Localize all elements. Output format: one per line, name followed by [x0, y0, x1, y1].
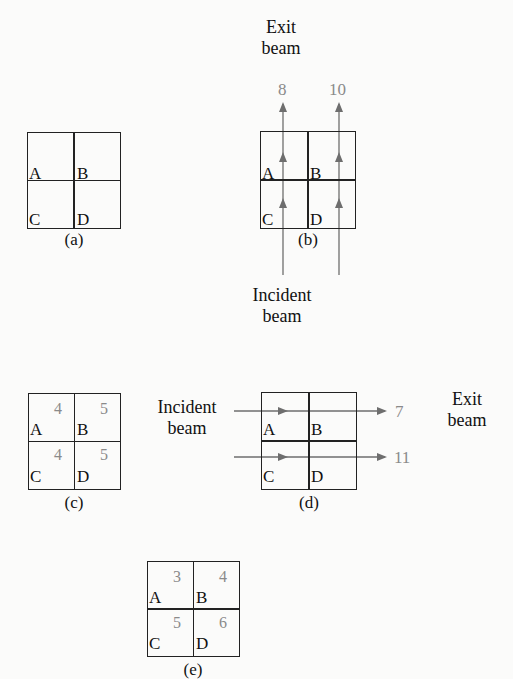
cell-label-a: A: [30, 421, 42, 438]
cell-label-a: A: [29, 165, 41, 182]
cell-label-d: D: [310, 211, 322, 228]
grid-b: A B C D: [260, 131, 356, 229]
caption-a: (a): [54, 231, 94, 248]
cell-label-c: C: [29, 211, 40, 228]
cell-label-a: A: [262, 165, 274, 182]
caption-b: (b): [288, 231, 328, 248]
incident-beam-label-d: Incident beam: [142, 397, 232, 439]
cell-label-a: A: [149, 589, 161, 606]
cell-label-c: C: [30, 468, 41, 485]
grid-d: A B C D: [261, 392, 357, 490]
cell-value-a: 4: [54, 401, 62, 417]
cell-label-a: A: [263, 421, 275, 438]
exit-value-bottom: 11: [394, 449, 410, 466]
arrowhead-icon: [377, 453, 387, 461]
cell-label-b: B: [311, 421, 322, 438]
exit-value-top: 7: [395, 403, 404, 420]
cell-label-d: D: [196, 635, 208, 652]
cell-label-c: C: [262, 211, 273, 228]
cell-value-c: 5: [173, 615, 181, 631]
exit-value-left: 8: [278, 81, 287, 98]
grid-e: 3 4 5 6 A B C D: [147, 561, 240, 657]
cell-value-b: 5: [100, 401, 108, 417]
caption-d: (d): [289, 494, 329, 511]
cell-value-d: 6: [219, 615, 227, 631]
cell-label-b: B: [77, 165, 88, 182]
cell-label-b: B: [196, 589, 207, 606]
cell-label-c: C: [263, 468, 274, 485]
cell-value-a: 3: [173, 569, 181, 585]
exit-value-right: 10: [329, 81, 346, 98]
cell-label-b: B: [77, 421, 88, 438]
cell-label-d: D: [311, 468, 323, 485]
arrowhead-icon: [377, 407, 387, 415]
exit-beam-label-b: Exit beam: [246, 17, 316, 59]
grid-c: 4 5 4 5 A B C D: [28, 393, 121, 490]
incident-beam-label-b: Incident beam: [237, 285, 327, 327]
cell-label-d: D: [77, 468, 89, 485]
cell-value-b: 4: [219, 569, 227, 585]
cell-value-d: 5: [100, 447, 108, 463]
arrowhead-icon: [335, 102, 343, 112]
caption-c: (c): [54, 494, 94, 511]
caption-e: (e): [173, 661, 213, 678]
arrowhead-icon: [279, 102, 287, 112]
cell-label-b: B: [310, 165, 321, 182]
cell-label-d: D: [77, 211, 89, 228]
cell-label-c: C: [149, 635, 160, 652]
grid-a: A B C D: [27, 132, 121, 229]
exit-beam-label-d: Exit beam: [432, 389, 502, 431]
cell-value-c: 4: [54, 447, 62, 463]
